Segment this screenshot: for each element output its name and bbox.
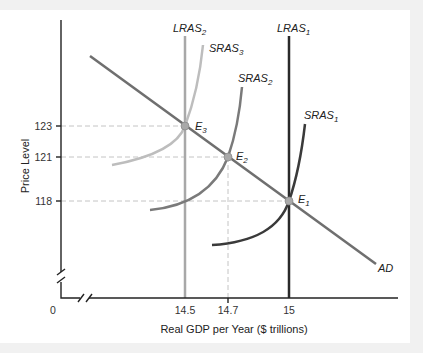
origin-label: 0 xyxy=(50,304,56,316)
e1-label: E1 xyxy=(298,193,310,208)
x-tick-label-15: 15 xyxy=(283,304,295,316)
sras1-curve xyxy=(212,124,305,245)
y-tick-label-118: 118 xyxy=(35,195,52,207)
e2-point xyxy=(224,153,232,161)
y-axis-title: Price Level xyxy=(19,139,31,193)
dashed-guides xyxy=(61,126,289,298)
sras1-label: SRAS1 xyxy=(304,109,338,124)
y-tick-label-123: 123 xyxy=(34,120,52,132)
x-tick-label-14-7: 14.7 xyxy=(218,304,239,316)
x-axis-title: Real GDP per Year ($ trillions) xyxy=(160,323,307,335)
y-axis-lower xyxy=(61,282,80,298)
x-tick-label-14-5: 14.5 xyxy=(175,304,196,316)
sras2-label: SRAS2 xyxy=(238,72,273,87)
sras3-label: SRAS3 xyxy=(209,42,244,57)
ad-label: AD xyxy=(377,262,393,274)
e1-point xyxy=(285,197,293,205)
y-tick-label-121: 121 xyxy=(34,151,52,163)
as-ad-chart: 123 121 118 0 14.5 14.7 15 Real GDP per … xyxy=(0,0,423,353)
e3-point xyxy=(181,122,189,130)
lras2-label: LRAS2 xyxy=(173,22,207,37)
lras1-label: LRAS1 xyxy=(277,22,310,37)
